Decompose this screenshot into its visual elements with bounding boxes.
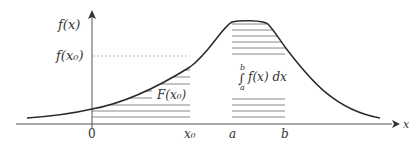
x-tick-0: 0	[88, 127, 96, 141]
y-tick-label-f-x0: f(x₀)	[55, 48, 84, 63]
y-axis-label: f(x)	[57, 17, 80, 32]
density-diagram: f(x) f(x₀) x 0 x₀ a b F(x₀) b ∫ a f(x) d…	[0, 0, 417, 141]
integral-body: f(x) dx	[247, 70, 287, 84]
cdf-label: F(x₀)	[156, 88, 187, 102]
x-axis-arrow-icon	[392, 120, 400, 128]
integral-lower-limit: a	[240, 83, 245, 92]
x-tick-b: b	[281, 127, 289, 141]
x-tick-x0: x₀	[184, 127, 196, 141]
x-axis-label: x	[403, 118, 410, 131]
density-curve	[27, 21, 380, 118]
x-tick-a: a	[229, 127, 236, 141]
